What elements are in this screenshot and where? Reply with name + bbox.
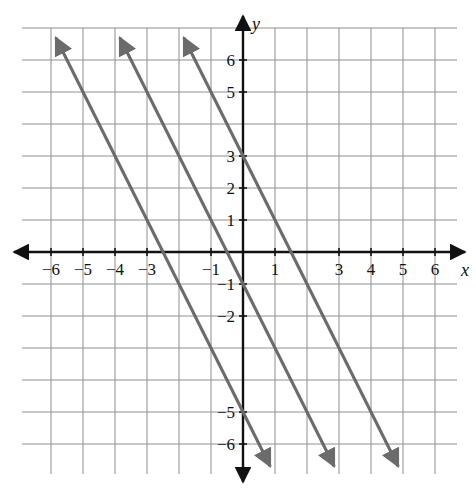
y-axis-label: y [252,15,260,33]
graph-figure: −6−5−4−3−11345665321−1−2−5−6 x y [0,0,476,495]
x-axis-label: x [461,261,469,279]
coordinate-plane-svg [0,0,476,495]
plot-background [0,0,476,495]
